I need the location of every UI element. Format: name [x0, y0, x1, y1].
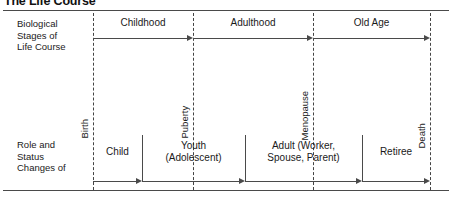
event-line-birth [93, 13, 94, 190]
role-arrow-line-adult-worker [245, 181, 357, 182]
row-label-biological-stages: Biological Stages of Life Course [17, 18, 66, 53]
bottom-divider-rule [3, 190, 449, 191]
row-label-line: Status [17, 151, 66, 163]
stage-caption-adulthood: Adulthood [193, 17, 313, 28]
row-label-line: Role and [17, 139, 66, 151]
role-caption-line: Adult (Worker, [245, 140, 362, 152]
stage-arrow-line-childhood [93, 38, 188, 39]
life-course-diagram: The Life Course Biological Stages of Lif… [0, 0, 452, 198]
role-arrow-line-youth [142, 181, 240, 182]
event-label-menopause: Menopause [300, 90, 310, 142]
role-caption-line: Child [93, 146, 142, 158]
row-label-line: Stages of [17, 30, 66, 42]
role-arrow-head-retiree [424, 178, 430, 184]
row-label-line: Life Course [17, 41, 66, 53]
row-label-role-status: Role and Status Changes of [17, 139, 66, 174]
event-line-death [430, 13, 431, 190]
stage-caption-childhood: Childhood [93, 17, 193, 28]
row-label-line: Changes of [17, 162, 66, 174]
role-caption-child: Child [93, 146, 142, 158]
role-arrow-line-child [93, 181, 137, 182]
event-line-puberty [193, 13, 194, 190]
role-arrow-line-retiree [362, 181, 425, 182]
page-title: The Life Course [4, 0, 95, 8]
role-caption-youth: Youth(Adolescent) [142, 140, 245, 163]
top-divider-rule [3, 10, 449, 11]
event-line-menopause [313, 13, 314, 190]
stage-caption-old-age: Old Age [313, 17, 430, 28]
stage-arrow-line-old-age [313, 38, 425, 39]
role-caption-line: (Adolescent) [142, 152, 245, 164]
role-caption-line: Spouse, Parent) [245, 152, 362, 164]
role-caption-retiree: Retiree [362, 146, 430, 158]
role-caption-line: Retiree [362, 146, 430, 158]
stage-arrow-line-adulthood [193, 38, 308, 39]
role-caption-adult-worker: Adult (Worker,Spouse, Parent) [245, 140, 362, 163]
row-label-line: Biological [17, 18, 66, 30]
role-divider-retiree [362, 135, 363, 182]
event-label-birth: Birth [80, 118, 90, 140]
event-label-puberty: Puberty [180, 105, 190, 140]
role-caption-line: Youth [142, 140, 245, 152]
stage-arrow-head-old-age [424, 35, 430, 41]
